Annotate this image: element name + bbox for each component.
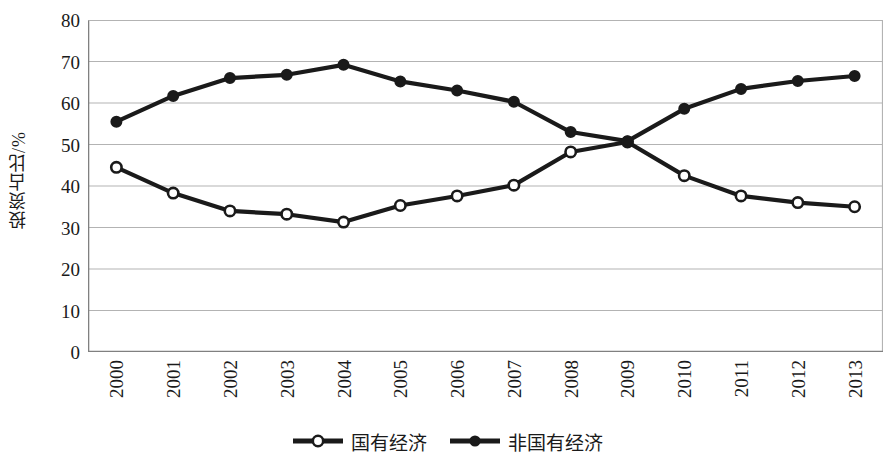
- legend-entry[interactable]: 国有经济: [292, 428, 427, 455]
- plot-svg: [88, 20, 883, 352]
- legend-open-circle-icon: [292, 433, 344, 449]
- legend-marker: [313, 436, 323, 446]
- x-tick-label: 2001: [164, 360, 183, 398]
- legend-filled-circle-icon: [449, 433, 501, 449]
- data-point-marker: [338, 217, 348, 227]
- data-point-marker: [679, 170, 689, 180]
- data-point-marker: [111, 162, 121, 172]
- y-tick-label: 10: [61, 301, 80, 320]
- y-tick-label: 70: [61, 52, 80, 71]
- y-tick-label: 40: [61, 177, 80, 196]
- data-point-marker: [566, 127, 576, 137]
- data-point-marker: [168, 188, 178, 198]
- legend-label: 国有经济: [351, 428, 427, 455]
- x-tick-label: 2008: [561, 360, 580, 398]
- data-point-marker: [111, 117, 121, 127]
- gridlines: [88, 20, 883, 352]
- x-tick-label: 2012: [788, 360, 807, 398]
- x-tick-label: 2011: [732, 360, 751, 397]
- data-point-marker: [565, 147, 575, 157]
- data-point-marker: [736, 191, 746, 201]
- y-tick-label: 0: [71, 343, 81, 362]
- y-tick-label: 80: [61, 11, 80, 30]
- data-point-marker: [395, 200, 405, 210]
- y-axis-title: 投资占比/%: [0, 0, 38, 360]
- data-point-marker: [736, 84, 746, 94]
- data-point-marker: [793, 197, 803, 207]
- data-point-marker: [679, 104, 689, 114]
- data-point-marker: [509, 97, 519, 107]
- data-point-marker: [339, 60, 349, 70]
- legend-label: 非国有经济: [508, 428, 603, 455]
- data-point-marker: [282, 70, 292, 80]
- x-tick-label: 2013: [845, 360, 864, 398]
- legend-entry[interactable]: 非国有经济: [449, 428, 603, 455]
- x-tick-label: 2002: [220, 360, 239, 398]
- plot-area: [88, 20, 883, 352]
- x-tick-label: 2009: [618, 360, 637, 398]
- data-point-marker: [622, 136, 632, 146]
- y-tick-label: 20: [61, 260, 80, 279]
- y-tick-label: 30: [61, 218, 80, 237]
- x-axis-tick-labels: 2000200120022003200420052006200720082009…: [88, 352, 883, 422]
- data-point-marker: [509, 180, 519, 190]
- x-tick-label: 2010: [675, 360, 694, 398]
- chart-legend: 国有经济非国有经济: [0, 425, 895, 457]
- data-point-marker: [225, 206, 235, 216]
- data-point-marker: [850, 71, 860, 81]
- x-tick-label: 2006: [448, 360, 467, 398]
- x-tick-label: 2000: [107, 360, 126, 398]
- data-point-marker: [225, 73, 235, 83]
- series-1: [111, 137, 860, 227]
- data-point-marker: [395, 76, 405, 86]
- x-tick-label: 2004: [334, 360, 353, 398]
- y-axis-tick-labels: 01020304050607080: [38, 0, 86, 360]
- y-tick-label: 60: [61, 94, 80, 113]
- data-point-marker: [168, 91, 178, 101]
- line-chart: 投资占比/% 01020304050607080 200020012002200…: [0, 0, 895, 457]
- x-tick-label: 2003: [277, 360, 296, 398]
- x-tick-label: 2005: [391, 360, 410, 398]
- data-point-marker: [452, 86, 462, 96]
- data-point-marker: [282, 209, 292, 219]
- data-point-marker: [793, 76, 803, 86]
- data-point-marker: [452, 191, 462, 201]
- y-axis-title-text: 投资占比/%: [6, 131, 32, 229]
- data-point-marker: [849, 202, 859, 212]
- y-tick-label: 50: [61, 135, 80, 154]
- legend-marker: [470, 436, 479, 445]
- x-tick-label: 2007: [504, 360, 523, 398]
